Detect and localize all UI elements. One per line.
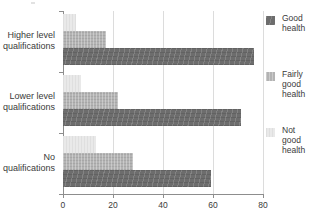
x-axis-label-0: 0 — [61, 200, 66, 210]
category-label-line1: No — [43, 152, 55, 162]
legend-label-line2: good — [282, 135, 323, 145]
bar-chart: Higher level qualifications Lower level … — [0, 0, 323, 217]
x-axis-label-60: 60 — [208, 200, 218, 210]
bar-lower-not-good-health[interactable] — [63, 75, 81, 92]
legend-label-not-good-health: Not good health — [282, 125, 323, 155]
category-label-line2: qualifications — [0, 41, 55, 52]
bar-higher-fairly-good-health[interactable] — [63, 31, 106, 48]
category-label-lower-level-qualifications: Lower level qualifications — [0, 91, 55, 113]
x-axis-label-20: 20 — [108, 200, 118, 210]
bar-lower-fairly-good-health[interactable] — [63, 92, 118, 109]
x-axis-label-40: 40 — [158, 200, 168, 210]
legend-label-line3: health — [282, 89, 323, 99]
legend-swatch-good-health-icon — [266, 16, 275, 25]
x-axis-tick-80 — [263, 194, 264, 198]
bar-no-qual-not-good-health[interactable] — [63, 136, 96, 153]
category-label-no-qualifications: No qualifications — [0, 152, 55, 174]
legend-label-good-health: Good health — [282, 13, 323, 33]
gridline-60 — [213, 11, 214, 194]
legend-swatch-not-good-health-icon — [266, 128, 275, 137]
x-axis-label-80: 80 — [258, 200, 268, 210]
bar-no-qual-good-health[interactable] — [63, 170, 211, 187]
x-axis-tick-0 — [63, 194, 64, 198]
category-label-line2: qualifications — [0, 163, 55, 174]
legend-label-fairly-good-health: Fairly good health — [282, 69, 323, 99]
legend-label-line2: good — [282, 79, 323, 89]
category-label-higher-level-qualifications: Higher level qualifications — [0, 30, 55, 52]
y-axis-tick-group-1-2 — [59, 72, 63, 73]
x-axis-tick-40 — [163, 194, 164, 198]
bar-higher-not-good-health[interactable] — [63, 14, 76, 31]
bar-higher-good-health[interactable] — [63, 48, 254, 65]
legend-label-line1: Not — [282, 125, 323, 135]
y-axis-tick-top — [59, 11, 63, 12]
plot-area — [63, 11, 264, 194]
x-axis-tick-20 — [113, 194, 114, 198]
x-axis-tick-60 — [213, 194, 214, 198]
category-label-line1: Higher level — [7, 30, 55, 40]
y-axis-tick-group-2-3 — [59, 133, 63, 134]
gridline-40 — [163, 11, 164, 194]
bar-no-qual-fairly-good-health[interactable] — [63, 153, 133, 170]
legend-label-line1: Good — [282, 13, 323, 23]
legend-label-line2: health — [282, 23, 323, 33]
gridline-80 — [263, 11, 264, 194]
category-label-line1: Lower level — [9, 91, 55, 101]
legend-swatch-fairly-good-health-icon — [266, 72, 275, 81]
bar-lower-good-health[interactable] — [63, 109, 241, 126]
legend-label-line1: Fairly — [282, 69, 323, 79]
legend-label-line3: health — [282, 145, 323, 155]
scan-artifact — [31, 2, 35, 4]
category-label-line2: qualifications — [0, 102, 55, 113]
